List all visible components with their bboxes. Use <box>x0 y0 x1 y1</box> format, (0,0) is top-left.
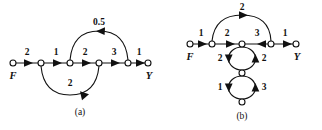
gain-label-n1-to-n2: 1 <box>54 47 59 57</box>
node-output-y <box>145 60 151 66</box>
arrowhead-loop-lower-right <box>252 83 260 92</box>
node-output-y-b <box>293 41 299 47</box>
arrowhead-n1-to-n2-b <box>226 40 235 48</box>
gain-label-loop-upper-left: 2 <box>218 53 223 63</box>
gain-label-arc-top-b: 2 <box>240 2 245 12</box>
gain-label-n3-to-y-b: 1 <box>283 28 288 38</box>
arrowhead-f-to-n1 <box>24 59 33 67</box>
node-b-mid <box>239 70 245 76</box>
gain-label-n1-to-n2-b: 2 <box>225 28 230 38</box>
terminal-label-f: F <box>8 70 16 81</box>
gain-label-f-to-n1-b: 1 <box>199 28 204 38</box>
arrowhead-feedback-top <box>96 27 105 35</box>
gain-label-loop-lower-left: 1 <box>218 82 223 92</box>
panel-b-caption: (b) <box>236 111 247 122</box>
arrowhead-loop-upper-left <box>225 55 233 64</box>
terminal-label-y: Y <box>146 70 154 81</box>
gain-label-feedback-bottom: 2 <box>68 78 73 88</box>
node-b-bottom <box>239 99 245 105</box>
signal-flow-graph-figure: 2 1 2 3 1 0.5 2 F Y (a) <box>0 0 322 130</box>
arrowhead-n3-to-y-b <box>283 40 292 48</box>
panel-a: 2 1 2 3 1 0.5 2 F Y (a) <box>8 17 153 118</box>
gain-label-n4-to-y: 1 <box>137 47 142 57</box>
terminal-label-y-b: Y <box>294 51 302 62</box>
node-a-1 <box>38 60 44 66</box>
node-a-2 <box>67 60 73 66</box>
arrowhead-f-to-n1-b <box>198 40 207 48</box>
arrowhead-n2-to-n3 <box>82 59 91 67</box>
node-input-f-b <box>187 41 193 47</box>
node-a-4 <box>125 60 131 66</box>
panel-b: 1 2 3 1 2 2 2 1 3 F Y (b) <box>185 2 301 122</box>
node-a-3 <box>96 60 102 66</box>
arrowhead-feedback-bottom <box>80 91 89 100</box>
panel-a-caption: (a) <box>75 107 86 118</box>
edge-feedback-top-path <box>70 31 128 60</box>
node-b-3 <box>268 41 274 47</box>
arrowhead-loop-upper-right <box>252 54 260 63</box>
arrowhead-n3-to-n2-b <box>257 40 266 48</box>
gain-label-f-to-n1: 2 <box>25 47 30 57</box>
gain-label-loop-upper-right: 2 <box>262 53 267 63</box>
arrowhead-n3-to-n4 <box>111 59 120 67</box>
gain-label-n2-to-n3: 2 <box>83 47 88 57</box>
node-b-1 <box>209 41 215 47</box>
figure-canvas: 2 1 2 3 1 0.5 2 F Y (a) <box>0 0 322 130</box>
gain-label-loop-lower-right: 3 <box>262 82 267 92</box>
arrowhead-loop-lower-left <box>225 84 233 93</box>
node-b-2 <box>239 41 245 47</box>
gain-label-feedback-top: 0.5 <box>93 17 105 27</box>
gain-label-n3-to-n4: 3 <box>112 47 117 57</box>
arrowhead-arc-top-b <box>239 11 248 19</box>
gain-label-n3-to-n2-b: 3 <box>255 28 260 38</box>
node-input-f <box>10 60 16 66</box>
edge-arc-top-path-b <box>212 15 271 41</box>
terminal-label-f-b: F <box>185 51 193 62</box>
arrowhead-n1-to-n2 <box>53 59 62 67</box>
arrowhead-n4-to-y <box>136 59 145 67</box>
